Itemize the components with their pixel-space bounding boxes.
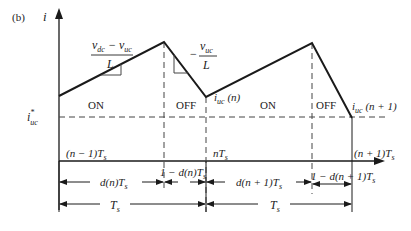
svg-text:L: L — [106, 57, 114, 71]
dimension-row-1: d(n)Ts 1 − d(n)Ts d(n + 1)Ts 1 − d(n + 1… — [60, 166, 375, 191]
interval-off-1: OFF — [176, 99, 196, 111]
y-axis-label: i — [43, 9, 47, 24]
dim-period-2: Ts — [270, 198, 280, 214]
valley-label-n: iuc (n) — [214, 91, 241, 106]
dim-period-1: Ts — [110, 198, 120, 214]
svg-text:−: − — [190, 47, 197, 61]
svg-text:L: L — [202, 58, 210, 72]
converter-current-waveform-diagram: (b) i i*uc (n − 1)Ts nTs (n + 1)Ts vdc −… — [0, 0, 411, 231]
reference-label: i*uc — [27, 108, 38, 127]
y-axis: i — [43, 8, 63, 210]
y-axis-arrow-icon — [55, 8, 63, 19]
dim-d-n-plus-1: d(n + 1)Ts — [236, 176, 282, 191]
interval-off-2: OFF — [316, 99, 336, 111]
dim-d-n: d(n)Ts — [100, 176, 128, 191]
time-axis: (n − 1)Ts nTs (n + 1)Ts — [59, 147, 395, 165]
panel-label: (b) — [12, 11, 25, 24]
interval-on-1: ON — [88, 99, 104, 111]
falling-slope-label: − vuc L — [190, 39, 217, 72]
svg-text:vuc: vuc — [200, 39, 213, 55]
svg-text:vdc − vuc: vdc − vuc — [92, 38, 132, 54]
rising-slope-label: vdc − vuc L — [91, 38, 133, 71]
tick-n: nTs — [213, 147, 228, 162]
interval-on-2: ON — [260, 99, 276, 111]
tick-n-minus-1: (n − 1)Ts — [66, 147, 107, 162]
valley-label-n-plus-1: iuc (n + 1) — [352, 100, 397, 115]
dim-one-minus-d-n-plus-1: 1 − d(n + 1)Ts — [311, 170, 375, 185]
dim-one-minus-d-n: 1 − d(n)Ts — [160, 166, 206, 181]
